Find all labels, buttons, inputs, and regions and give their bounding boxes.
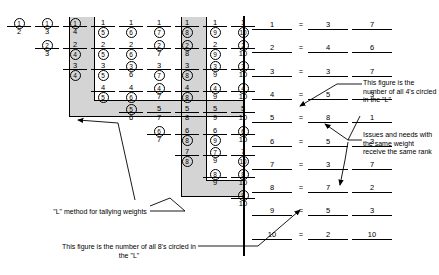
callout-leader-lines	[0, 0, 439, 275]
figure-canvas: 1213141516171819110232425262728292103435…	[0, 0, 439, 275]
